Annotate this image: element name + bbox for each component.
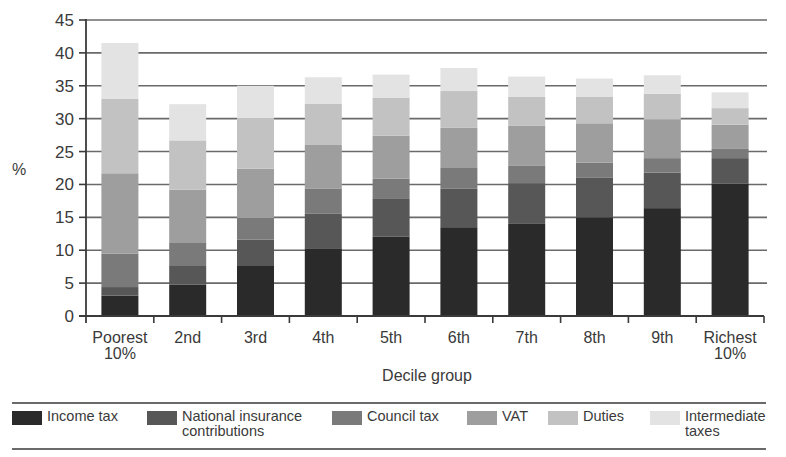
x-tick-label: 6th [448, 329, 470, 346]
bars [101, 43, 748, 316]
x-tick-label: 2nd [174, 329, 201, 346]
bar-stack [101, 43, 138, 316]
bar-stack [373, 75, 410, 316]
bar-segment-national-insurance-contributions [101, 287, 138, 296]
bar-segment-income-tax [644, 208, 681, 316]
y-tick-label: 5 [65, 274, 74, 293]
bar-segment-council-tax [169, 243, 206, 266]
legend-swatch [467, 411, 497, 425]
legend-swatch [332, 411, 362, 425]
y-tick-label: 35 [55, 77, 74, 96]
bar-segment-council-tax [440, 168, 477, 188]
x-tick-label: 7th [516, 329, 538, 346]
x-tick-label: 5th [380, 329, 402, 346]
bar-segment-national-insurance-contributions [305, 213, 342, 248]
bar-segment-council-tax [373, 179, 410, 199]
legend-label: VAT [502, 409, 528, 424]
bar-segment-intermediate-taxes [169, 104, 206, 140]
legend-item: Income tax [12, 409, 118, 425]
y-tick-label: 30 [55, 110, 74, 129]
x-tick-label: 8th [583, 329, 605, 346]
legend-item: Council tax [332, 409, 439, 425]
bar-segment-vat [169, 190, 206, 243]
bar-stack [305, 77, 342, 316]
bar-segment-council-tax [508, 165, 545, 183]
bar-segment-duties [644, 94, 681, 120]
bar-segment-duties [169, 140, 206, 189]
bar-segment-intermediate-taxes [644, 75, 681, 93]
bar-segment-duties [712, 108, 749, 124]
bar-segment-council-tax [644, 158, 681, 172]
y-axis-title: % [12, 161, 26, 178]
x-tick-label: Richest10% [703, 329, 757, 362]
bar-segment-income-tax [373, 236, 410, 316]
bar-segment-national-insurance-contributions [508, 183, 545, 224]
bar-stack [440, 68, 477, 316]
bar-segment-duties [373, 98, 410, 136]
legend-swatch [650, 411, 680, 425]
bar-segment-income-tax [508, 224, 545, 316]
y-tick-label: 0 [65, 307, 74, 326]
bar-segment-income-tax [237, 266, 274, 316]
bar-segment-council-tax [101, 254, 138, 288]
y-tick-label: 20 [55, 175, 74, 194]
legend-item: Duties [548, 409, 624, 425]
stacked-bar-chart: 051015202530354045 Poorest10%2nd3rd4th5t… [0, 0, 786, 457]
bar-segment-national-insurance-contributions [169, 266, 206, 284]
legend-item: VAT [467, 409, 528, 425]
legend-item: National insurance contributions [147, 409, 302, 439]
x-axis-title: Decile group [382, 367, 472, 384]
x-tick-label: Poorest10% [92, 329, 148, 362]
legend-item: Intermediate taxes [650, 409, 766, 439]
bar-segment-national-insurance-contributions [373, 198, 410, 236]
bar-segment-council-tax [237, 218, 274, 240]
bar-segment-vat [508, 126, 545, 165]
bar-stack [712, 92, 749, 316]
legend-label: Income tax [47, 409, 118, 424]
bar-segment-vat [440, 128, 477, 168]
bar-stack [576, 79, 613, 316]
bar-stack [508, 77, 545, 316]
legend-label: Intermediate taxes [685, 409, 766, 439]
legend-label: Council tax [367, 409, 439, 424]
bar-segment-national-insurance-contributions [440, 188, 477, 227]
bar-segment-national-insurance-contributions [712, 158, 749, 184]
y-tick-label: 15 [55, 208, 74, 227]
bar-segment-income-tax [440, 227, 477, 316]
y-tick-label: 10 [55, 241, 74, 260]
bar-segment-vat [373, 136, 410, 179]
bar-segment-council-tax [305, 188, 342, 213]
bar-segment-income-tax [576, 217, 613, 316]
bar-segment-income-tax [712, 184, 749, 316]
y-tick-label: 40 [55, 44, 74, 63]
bar-segment-vat [237, 169, 274, 218]
bar-segment-income-tax [305, 248, 342, 316]
y-tick-labels: 051015202530354045 [55, 11, 74, 326]
y-tick-label: 25 [55, 143, 74, 162]
bar-segment-council-tax [712, 149, 749, 158]
bar-segment-intermediate-taxes [440, 68, 477, 91]
x-tick-labels: Poorest10%2nd3rd4th5th6th7th8th9thRiches… [92, 329, 757, 362]
bar-segment-intermediate-taxes [373, 75, 410, 98]
bar-segment-national-insurance-contributions [576, 178, 613, 217]
legend: Income taxNational insurance contributio… [12, 402, 766, 450]
bar-segment-income-tax [169, 284, 206, 316]
x-tick-label: 9th [651, 329, 673, 346]
bar-stack [169, 104, 206, 316]
legend-label: National insurance contributions [182, 409, 302, 439]
legend-label: Duties [583, 409, 624, 424]
bar-segment-duties [440, 91, 477, 128]
bar-segment-vat [576, 123, 613, 162]
bar-segment-council-tax [576, 163, 613, 178]
bar-segment-vat [101, 173, 138, 253]
bar-segment-income-tax [101, 296, 138, 316]
legend-swatch [12, 411, 42, 425]
bar-stack [237, 86, 274, 316]
bar-segment-duties [101, 99, 138, 173]
legend-swatch [147, 411, 177, 425]
bar-segment-intermediate-taxes [576, 79, 613, 97]
bar-segment-intermediate-taxes [508, 77, 545, 97]
bar-segment-vat [644, 119, 681, 158]
bar-segment-vat [712, 125, 749, 149]
bar-segment-national-insurance-contributions [237, 240, 274, 266]
